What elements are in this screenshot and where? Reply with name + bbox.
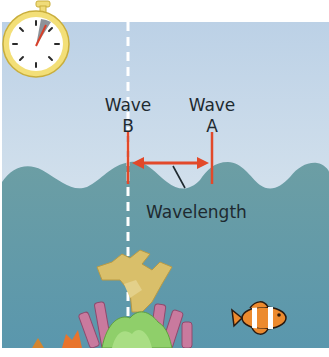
wave-b-label-line2: B xyxy=(104,116,152,137)
wave-a-label-line1: Wave xyxy=(188,95,236,116)
stopwatch-icon xyxy=(0,0,80,82)
wave-a-label-line2: A xyxy=(188,116,236,137)
wave-b-label: Wave B xyxy=(104,95,152,137)
wave-b-label-line1: Wave xyxy=(104,95,152,116)
wavelength-label: Wavelength xyxy=(146,202,247,222)
wave-a-label: Wave A xyxy=(188,95,236,137)
